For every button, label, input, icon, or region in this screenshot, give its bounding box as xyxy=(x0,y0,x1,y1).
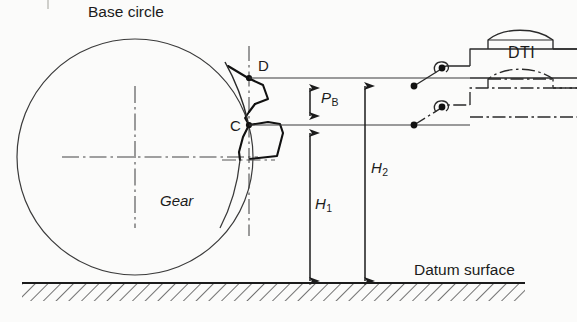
height2-symbol: H xyxy=(371,159,382,176)
height1-label: H1 xyxy=(315,196,332,211)
gear-teeth xyxy=(228,66,283,160)
height1-symbol: H xyxy=(315,195,326,212)
gear-label: Gear xyxy=(160,193,193,208)
point-c-label: C xyxy=(230,118,241,133)
dti-label: DTI xyxy=(508,45,535,61)
base-circle-label: Base circle xyxy=(88,4,164,20)
base-pitch-symbol: P xyxy=(321,89,331,106)
base-pitch-label: PB xyxy=(321,90,338,105)
dti-lower-body xyxy=(470,88,577,105)
height2-label: H2 xyxy=(371,160,388,175)
gear-tooth-lower-flank xyxy=(220,160,240,228)
datum-surface-label: Datum surface xyxy=(414,262,515,278)
dti-upper xyxy=(411,30,577,89)
height2-subscript: 2 xyxy=(382,166,388,178)
datum-surface-hatching xyxy=(22,284,525,301)
height1-subscript: 1 xyxy=(326,202,332,214)
datum-surface xyxy=(22,283,525,301)
figure-canvas: Base circle Gear Datum surface DTI D C P… xyxy=(0,0,577,322)
base-pitch-subscript: B xyxy=(332,96,339,108)
point-d-label: D xyxy=(258,58,269,73)
